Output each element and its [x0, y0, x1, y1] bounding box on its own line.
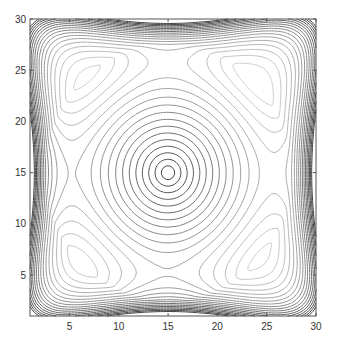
- x-tick-label: 30: [310, 321, 322, 332]
- contour-level: [47, 37, 299, 298]
- contour-level: [39, 28, 307, 306]
- x-tick-label: 20: [212, 321, 224, 332]
- contour-level: [60, 49, 287, 285]
- contour-level: [44, 34, 302, 302]
- contour-chart: 51015202530 51015202530: [0, 0, 337, 346]
- y-tick-label: 20: [15, 116, 27, 127]
- contour-lines: [30, 19, 316, 316]
- x-tick-label: 25: [261, 321, 273, 332]
- contour-level: [55, 45, 292, 291]
- contour-level: [51, 40, 296, 294]
- contour-level: [37, 26, 309, 309]
- contour-level: [30, 19, 316, 316]
- y-tick-label: 5: [20, 270, 26, 281]
- y-tick-label: 30: [15, 14, 27, 25]
- y-tick-label: 10: [15, 218, 27, 229]
- x-tick-label: 5: [67, 321, 73, 332]
- x-tick-label: 15: [163, 321, 175, 332]
- y-tick-label: 15: [15, 167, 27, 178]
- y-tick-label: 25: [15, 65, 27, 76]
- x-axis-ticks: 51015202530: [67, 19, 322, 332]
- x-tick-label: 10: [113, 321, 125, 332]
